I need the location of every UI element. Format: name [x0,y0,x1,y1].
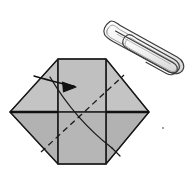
folded-paper [10,59,149,164]
origami-diagram-svg [0,0,192,175]
paper-clip [104,21,184,75]
speck-mark [162,127,164,129]
diagram-canvas: Origami fold step with paper clip paper … [0,0,192,175]
